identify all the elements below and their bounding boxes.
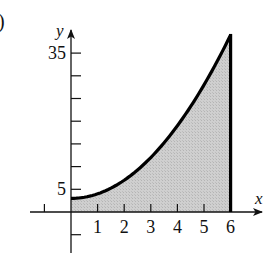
x-tick-label: 2 bbox=[120, 217, 129, 237]
x-tick-label: 6 bbox=[226, 217, 235, 237]
part-label: ) bbox=[0, 10, 5, 33]
x-axis-label: x bbox=[254, 189, 263, 208]
x-tick-labels: 123456 bbox=[93, 217, 235, 237]
area-under-curve-chart: ) 123456 535 y x bbox=[0, 0, 273, 265]
shaded-area bbox=[71, 35, 231, 212]
x-tick-label: 4 bbox=[173, 217, 182, 237]
x-tick-label: 5 bbox=[200, 217, 209, 237]
y-axis-label: y bbox=[54, 21, 64, 40]
x-tick-label: 3 bbox=[146, 217, 155, 237]
y-tick-label: 35 bbox=[48, 43, 66, 63]
y-tick-labels: 535 bbox=[48, 43, 66, 199]
x-tick-label: 1 bbox=[93, 217, 102, 237]
y-tick-label: 5 bbox=[57, 179, 66, 199]
